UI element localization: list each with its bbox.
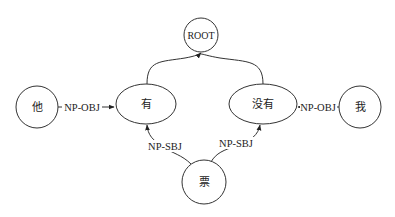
svg-text:票: 票	[199, 176, 210, 189]
edge-label-wo-meiyou: NP-OBJ	[300, 102, 336, 113]
node-ta: 他	[16, 86, 58, 128]
svg-text:有: 有	[141, 97, 152, 111]
svg-text:ROOT: ROOT	[187, 30, 214, 41]
edge-label-piao-meiyou: NP-SBJ	[219, 138, 253, 149]
dependency-diagram: NP-OBJ NP-OBJ NP-SBJ NP-SBJ ROOT 他 有 没有 …	[0, 0, 395, 217]
node-root: ROOT	[184, 18, 218, 52]
edge-you-to-root	[147, 53, 201, 84]
node-wo: 我	[339, 86, 381, 128]
svg-text:没有: 没有	[252, 97, 274, 111]
node-piao: 票	[182, 160, 226, 204]
edge-label-ta-you: NP-OBJ	[64, 102, 100, 113]
svg-text:我: 我	[355, 101, 366, 114]
edge-label-piao-you: NP-SBJ	[148, 141, 182, 152]
svg-text:他: 他	[32, 101, 43, 114]
edge-meiyou-to-root	[201, 54, 263, 84]
node-you: 有	[116, 84, 176, 124]
node-meiyou: 没有	[229, 84, 297, 124]
